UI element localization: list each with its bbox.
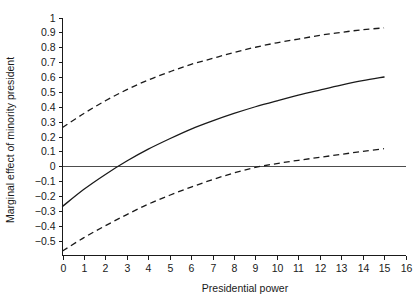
x-tick-label: 1 <box>82 262 88 274</box>
y-tick-label: 0.3 <box>41 116 56 128</box>
x-tick-label: 16 <box>401 262 413 274</box>
y-tick-label: 0.9 <box>41 26 56 38</box>
data-series-group <box>63 28 385 251</box>
x-tick-label: 5 <box>168 262 174 274</box>
y-tick-label: −0.4 <box>35 220 56 232</box>
x-axis-title: Presidential power <box>202 282 289 294</box>
lower-confidence-bound <box>63 149 385 251</box>
x-tick-label: 10 <box>272 262 284 274</box>
upper-confidence-bound <box>63 28 385 128</box>
x-tick-label: 4 <box>146 262 152 274</box>
y-tick-label: −0.5 <box>35 235 56 247</box>
x-tick-label: 6 <box>189 262 195 274</box>
y-tick-label: 1 <box>50 12 56 24</box>
y-tick-label: 0.8 <box>41 41 56 53</box>
x-tick-label: 2 <box>103 262 109 274</box>
marginal-effect-estimate <box>63 77 385 206</box>
x-tick-label: 3 <box>125 262 131 274</box>
y-tick-label: 0 <box>50 160 56 172</box>
x-tick-label: 8 <box>232 262 238 274</box>
chart-plot-svg: −0.5−0.4−0.3−0.2−0.100.10.20.30.40.50.60… <box>0 0 419 303</box>
axes-group <box>63 18 406 256</box>
y-tick-label: 0.5 <box>41 86 56 98</box>
x-tick-label: 13 <box>336 262 348 274</box>
y-tick-label: −0.3 <box>35 205 56 217</box>
y-tick-label: 0.2 <box>41 131 56 143</box>
y-tick-label: −0.2 <box>35 190 56 202</box>
x-tick-label: 12 <box>315 262 327 274</box>
y-tick-label: 0.4 <box>41 101 56 113</box>
x-tick-label: 7 <box>211 262 217 274</box>
y-tick-label: 0.6 <box>41 71 56 83</box>
y-tick-label: −0.1 <box>35 175 56 187</box>
x-tick-label: 15 <box>379 262 391 274</box>
x-tick-label: 9 <box>253 262 259 274</box>
x-tick-label: 11 <box>293 262 304 274</box>
x-tick-label: 14 <box>358 262 370 274</box>
y-tick-label: 0.1 <box>41 145 56 157</box>
x-axis-ticks-group: 012345678910111213141516 <box>61 256 413 274</box>
chart-figure: −0.5−0.4−0.3−0.2−0.100.10.20.30.40.50.60… <box>0 0 419 303</box>
y-axis-title: Marginal effect of minority president <box>4 57 16 223</box>
y-axis-ticks-group: −0.5−0.4−0.3−0.2−0.100.10.20.30.40.50.60… <box>35 12 63 247</box>
y-tick-label: 0.7 <box>41 56 56 68</box>
x-tick-label: 0 <box>61 262 67 274</box>
